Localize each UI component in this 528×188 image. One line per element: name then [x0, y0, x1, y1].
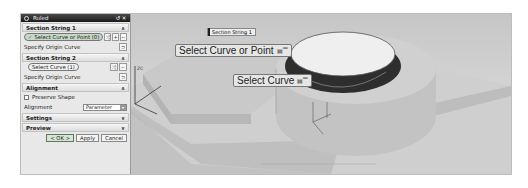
preserve-shape-checkbox[interactable] — [24, 95, 29, 100]
section-string-2-header[interactable]: Section String 2 ∧ — [22, 53, 129, 62]
apply-button[interactable]: Apply — [76, 134, 99, 142]
select-curve-or-point-callout: Select Curve or Point ▤▔ — [175, 44, 292, 57]
section-2-origin-row: Specify Origin Curve ⊃ — [21, 72, 130, 82]
select-curve-button[interactable]: Select Curve (1) — [28, 63, 79, 71]
point-constructor-icon[interactable]: + — [112, 33, 119, 41]
graphics-viewport[interactable]: ZC Section String 1 Select Curve or Poin… — [131, 14, 511, 174]
chevron-down-icon: ∨ — [121, 115, 125, 121]
chevron-down-icon: ∨ — [121, 125, 125, 131]
close-icon[interactable]: ✕ — [121, 15, 127, 21]
preserve-shape-row: Preserve Shape — [21, 92, 130, 102]
preview-header[interactable]: Preview ∨ — [22, 123, 129, 132]
ruled-dialog: Ruled ↺ ✕ Section String 1 ∧ ✓ Select Cu… — [21, 14, 131, 174]
chevron-up-icon: ∧ — [121, 55, 125, 61]
chevron-up-icon: ∧ — [121, 85, 125, 91]
filter-icon: ▤▔ — [277, 47, 288, 54]
curve-rule-icon[interactable]: ⌐ — [119, 63, 127, 71]
section-1-select-row: ✓ Select Curve or Point (0) ⤭ + ⌐ — [21, 32, 130, 42]
alignment-header[interactable]: Alignment ∧ — [22, 83, 129, 92]
filter-icon: ▤▔ — [297, 77, 308, 84]
dialog-titlebar[interactable]: Ruled ↺ ✕ — [21, 14, 130, 22]
reverse-direction-icon[interactable]: ⤭ — [110, 63, 118, 71]
dialog-title: Ruled — [33, 15, 115, 21]
model-geometry: ZC — [131, 14, 511, 174]
reverse-direction-icon[interactable]: ⤭ — [104, 33, 111, 41]
origin-curve-icon[interactable]: ⊃ — [119, 73, 127, 81]
section-string-1-header[interactable]: Section String 1 ∧ — [22, 23, 129, 32]
select-curve-callout: Select Curve ▤▔ — [233, 74, 312, 87]
check-icon: ✓ — [28, 34, 32, 40]
select-curve-or-point-button[interactable]: ✓ Select Curve or Point (0) — [24, 33, 103, 41]
axis-label-zc: ZC — [137, 66, 143, 71]
alignment-row: Alignment Parameter ▾ — [21, 102, 130, 112]
section-1-origin-row: Specify Origin Curve ⊃ — [21, 42, 130, 52]
alignment-select[interactable]: Parameter ▾ — [83, 104, 127, 111]
dropdown-arrow-icon: ▾ — [120, 105, 126, 110]
section-string-1-tag: Section String 1 — [207, 28, 256, 36]
curve-rule-icon[interactable]: ⌐ — [120, 33, 127, 41]
cancel-button[interactable]: Cancel — [101, 134, 127, 142]
dialog-app-icon — [24, 16, 29, 21]
origin-curve-icon[interactable]: ⊃ — [119, 43, 127, 51]
ok-button[interactable]: < OK > — [46, 134, 74, 142]
section-2-select-row: Select Curve (1) ⤭ ⌐ — [21, 62, 130, 72]
settings-header[interactable]: Settings ∨ — [22, 113, 129, 122]
dialog-footer: < OK > Apply Cancel — [21, 132, 130, 142]
chevron-up-icon: ∧ — [121, 25, 125, 31]
